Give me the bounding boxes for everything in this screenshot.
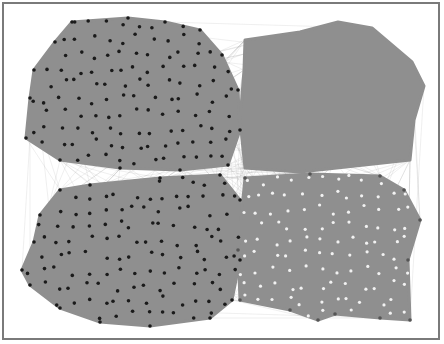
graph-node (130, 205, 134, 209)
graph-node (28, 96, 32, 100)
graph-node (146, 71, 150, 75)
graph-node (58, 158, 62, 162)
graph-node (304, 249, 307, 252)
graph-node (329, 281, 332, 284)
graph-node (211, 281, 215, 285)
graph-node (163, 20, 167, 24)
graph-node (79, 114, 83, 118)
graph-node (32, 240, 36, 244)
graph-node (61, 126, 65, 130)
graph-node (230, 298, 234, 302)
graph-node (154, 158, 158, 162)
graph-node (395, 266, 398, 269)
graph-node (28, 283, 32, 287)
graph-node (108, 39, 112, 43)
graph-node (201, 194, 205, 198)
graph-node (117, 50, 121, 54)
graph-node (53, 40, 57, 44)
graph-node (298, 303, 301, 306)
graph-node (335, 271, 338, 274)
graph-node (24, 136, 28, 140)
graph-node (182, 64, 186, 68)
graph-node (67, 240, 71, 244)
graph-node (301, 192, 304, 195)
graph-node (105, 208, 109, 212)
graph-node (176, 141, 180, 145)
graph-node (172, 224, 176, 228)
graph-node (60, 68, 64, 72)
graph-node (322, 287, 325, 290)
graph-node (276, 175, 279, 178)
graph-node (73, 301, 77, 305)
graph-node (276, 254, 279, 257)
cluster-layer (22, 18, 424, 326)
graph-node (243, 176, 247, 180)
graph-node (284, 254, 287, 257)
graph-node (93, 34, 97, 38)
graph-node (58, 188, 62, 192)
graph-node (80, 50, 84, 54)
graph-node (199, 124, 203, 128)
graph-node (70, 20, 74, 24)
graph-node (332, 213, 335, 216)
graph-node (88, 224, 92, 228)
graph-node (406, 206, 409, 209)
graph-node (146, 108, 150, 112)
graph-node (207, 300, 211, 304)
graph-node (181, 303, 185, 307)
graph-node (194, 299, 198, 303)
graph-node (208, 110, 212, 114)
graph-node (76, 126, 80, 130)
graph-node (288, 308, 292, 312)
graph-node (161, 253, 165, 257)
network-graph-canvas (0, 0, 444, 344)
graph-node (320, 194, 323, 197)
graph-node (132, 286, 136, 290)
graph-node (243, 293, 246, 296)
graph-node (225, 94, 229, 98)
graph-node (56, 225, 60, 229)
graph-node (362, 204, 365, 207)
graph-node (118, 159, 122, 163)
graph-node (135, 240, 139, 244)
graph-node (109, 126, 113, 130)
graph-node (225, 255, 229, 259)
graph-node (161, 310, 165, 314)
graph-node (406, 272, 409, 275)
graph-node (227, 115, 231, 119)
cluster-bottom-right (238, 174, 420, 320)
graph-node (318, 251, 321, 254)
graph-node (138, 132, 142, 136)
graph-node (162, 156, 166, 160)
graph-node (132, 162, 136, 166)
graph-node (31, 99, 35, 103)
graph-node (348, 254, 351, 257)
graph-node (131, 65, 135, 69)
graph-node (153, 37, 157, 41)
graph-node (168, 56, 172, 60)
graph-node (42, 101, 46, 105)
graph-node (210, 311, 214, 315)
graph-node (403, 311, 406, 314)
graph-node (44, 280, 48, 284)
graph-node (45, 109, 49, 113)
graph-node (277, 220, 280, 223)
graph-node (345, 196, 348, 199)
graph-node (104, 153, 108, 157)
graph-node (86, 19, 90, 23)
graph-node (161, 65, 165, 69)
graph-node (58, 306, 62, 310)
graph-node (117, 235, 121, 239)
graph-node (378, 174, 382, 178)
graph-node (96, 282, 100, 286)
graph-node (285, 227, 288, 230)
graph-node (93, 57, 97, 61)
graph-node (88, 183, 92, 187)
graph-node (382, 303, 385, 306)
graph-node (88, 298, 92, 302)
graph-node (120, 219, 124, 223)
graph-node (404, 192, 407, 195)
graph-node (60, 253, 64, 257)
graph-node (393, 192, 396, 195)
graph-node (210, 127, 214, 131)
